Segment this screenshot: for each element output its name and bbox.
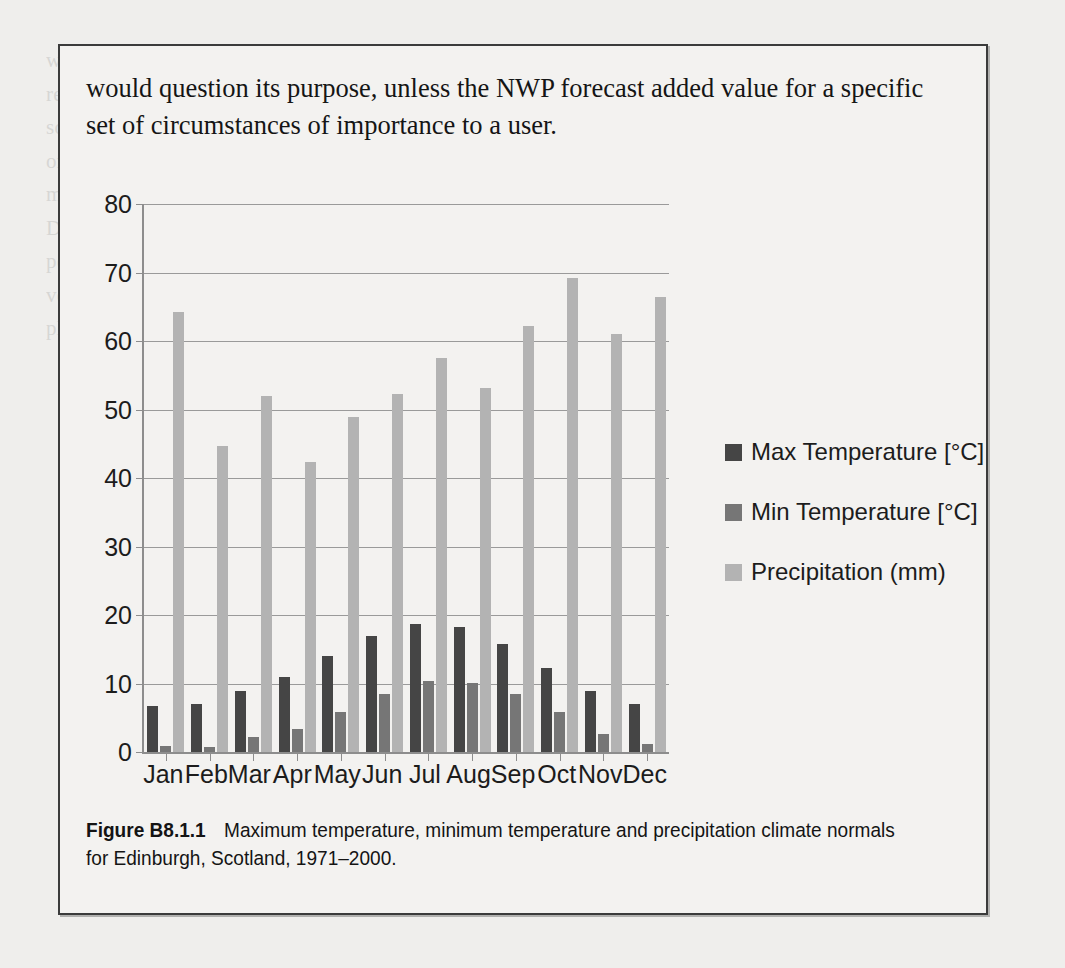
bar-group: [494, 204, 538, 752]
x-axis-label: Apr: [271, 760, 314, 789]
bar: [510, 694, 521, 752]
bar: [322, 656, 333, 752]
bar: [642, 744, 653, 752]
legend-label: Max Temperature [°C]: [751, 438, 984, 466]
y-tick-mark: [136, 615, 144, 616]
bar: [655, 297, 666, 752]
y-tick-label: 0: [118, 738, 132, 767]
bar: [423, 681, 434, 752]
bar: [629, 704, 640, 752]
x-axis-label: Mar: [228, 760, 271, 789]
y-tick-mark: [136, 204, 144, 205]
bar-group: [450, 204, 494, 752]
bar: [436, 358, 447, 752]
bar: [261, 396, 272, 752]
bar: [279, 677, 290, 752]
x-axis-label: Feb: [185, 760, 228, 789]
legend-item: Max Temperature [°C]: [725, 438, 984, 466]
bar: [335, 712, 346, 752]
y-tick-mark: [136, 341, 144, 342]
figure-caption-label: Figure B8.1.1: [86, 818, 206, 841]
figure-caption: Figure B8.1.1 Maximum temperature, minim…: [86, 816, 895, 872]
bar-group: [319, 204, 363, 752]
x-axis-label: Oct: [535, 760, 578, 789]
bar: [454, 627, 465, 752]
bar: [235, 691, 246, 752]
x-axis-label: Sep: [491, 760, 535, 789]
y-tick-label: 80: [104, 190, 132, 219]
bar: [480, 388, 491, 752]
y-tick-label: 60: [104, 327, 132, 356]
bar: [497, 644, 508, 752]
chart-bar-groups: [144, 204, 669, 752]
bar: [217, 446, 228, 752]
x-axis-label: Dec: [623, 760, 667, 789]
x-axis-label: Jan: [142, 760, 185, 789]
y-tick-label: 10: [104, 669, 132, 698]
bar: [366, 636, 377, 752]
y-tick-label: 30: [104, 532, 132, 561]
legend-label: Precipitation (mm): [751, 558, 946, 586]
bar: [554, 712, 565, 752]
bar-group: [363, 204, 407, 752]
chart-x-axis-labels: JanFebMarAprMayJunJulAugSepOctNovDec: [142, 760, 667, 789]
y-tick-mark: [136, 684, 144, 685]
bar: [191, 704, 202, 752]
legend-swatch: [725, 444, 742, 461]
bar-group: [407, 204, 451, 752]
bar-group: [625, 204, 669, 752]
legend-swatch: [725, 564, 742, 581]
bar: [467, 683, 478, 752]
bar-group: [275, 204, 319, 752]
bar-group: [144, 204, 188, 752]
legend-swatch: [725, 504, 742, 521]
x-axis-label: Nov: [578, 760, 622, 789]
x-axis-label: Jun: [361, 760, 404, 789]
bar-group: [188, 204, 232, 752]
y-tick-mark: [136, 752, 144, 753]
figure-caption-text: Maximum temperature, minimum temperature…: [86, 818, 895, 869]
bar: [392, 394, 403, 752]
x-axis-label: May: [314, 760, 361, 789]
y-tick-label: 40: [104, 464, 132, 493]
bar: [305, 462, 316, 752]
bar: [379, 694, 390, 752]
y-tick-label: 70: [104, 258, 132, 287]
bar-group: [582, 204, 626, 752]
bar: [611, 334, 622, 752]
y-tick-label: 50: [104, 395, 132, 424]
bar: [348, 417, 359, 752]
chart-legend: Max Temperature [°C]Min Temperature [°C]…: [725, 438, 984, 586]
bar: [147, 706, 158, 752]
legend-label: Min Temperature [°C]: [751, 498, 978, 526]
x-axis-label: Aug: [446, 760, 490, 789]
bar: [248, 737, 259, 752]
bar: [567, 278, 578, 752]
climate-normals-bar-chart: 01020304050607080 JanFebMarAprMayJunJulA…: [70, 176, 970, 816]
bar: [292, 729, 303, 752]
feature-box-body-text: would question its purpose, unless the N…: [86, 70, 956, 144]
legend-item: Min Temperature [°C]: [725, 498, 984, 526]
legend-item: Precipitation (mm): [725, 558, 984, 586]
bar: [585, 691, 596, 752]
y-tick-mark: [136, 478, 144, 479]
y-tick-mark: [136, 410, 144, 411]
x-axis-label: Jul: [404, 760, 447, 789]
y-tick-label: 20: [104, 601, 132, 630]
feature-box: would question its purpose, unless the N…: [58, 44, 988, 915]
chart-plot-area: 01020304050607080: [142, 204, 669, 754]
bar-group: [538, 204, 582, 752]
bar-group: [232, 204, 276, 752]
bar: [410, 624, 421, 752]
bar: [598, 734, 609, 752]
y-tick-mark: [136, 547, 144, 548]
y-tick-mark: [136, 273, 144, 274]
bar: [541, 668, 552, 752]
bar: [523, 326, 534, 752]
bar: [173, 312, 184, 752]
